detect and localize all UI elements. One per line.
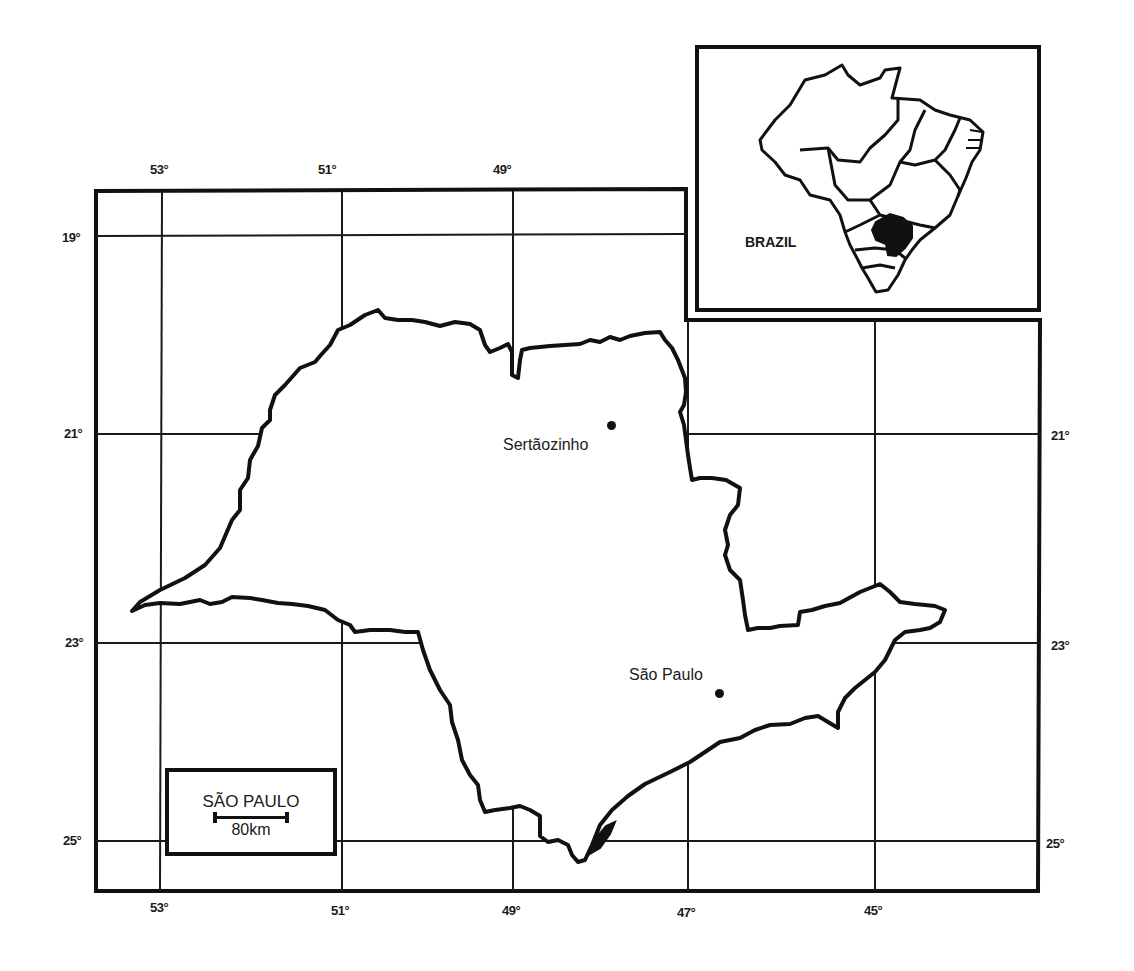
legend-box: SÃO PAULO 80km xyxy=(165,768,337,856)
latitude-label-left-21: 21° xyxy=(64,426,82,441)
latitude-label-right-21: 21° xyxy=(1051,428,1069,443)
longitude-label-bottom-53: 53° xyxy=(150,900,168,915)
longitude-label-top-51: 51° xyxy=(318,162,336,177)
longitude-label-bottom-51: 51° xyxy=(331,903,349,918)
inset-label-brazil: BRAZIL xyxy=(745,234,796,250)
longitude-label-bottom-49: 49° xyxy=(502,903,520,918)
longitude-label-top-49: 49° xyxy=(493,162,511,177)
longitude-label-bottom-45: 45° xyxy=(864,903,882,918)
latitude-label-right-25: 25° xyxy=(1046,836,1064,851)
city-label-sao-paulo: São Paulo xyxy=(629,666,703,684)
longitude-label-top-53: 53° xyxy=(150,162,168,177)
sertaozinho-marker xyxy=(607,421,616,430)
latitude-label-left-19: 19° xyxy=(62,230,80,245)
sao-paulo-marker xyxy=(715,689,724,698)
scale-bar xyxy=(213,816,289,819)
latitude-label-left-25: 25° xyxy=(63,833,81,848)
scale-distance: 80km xyxy=(169,821,333,839)
city-label-sertaozinho: Sertãozinho xyxy=(503,436,588,454)
latitude-label-right-23: 23° xyxy=(1051,638,1069,653)
legend-title: SÃO PAULO xyxy=(169,792,333,812)
longitude-label-bottom-47: 47° xyxy=(677,905,695,920)
latitude-label-left-23: 23° xyxy=(65,635,83,650)
